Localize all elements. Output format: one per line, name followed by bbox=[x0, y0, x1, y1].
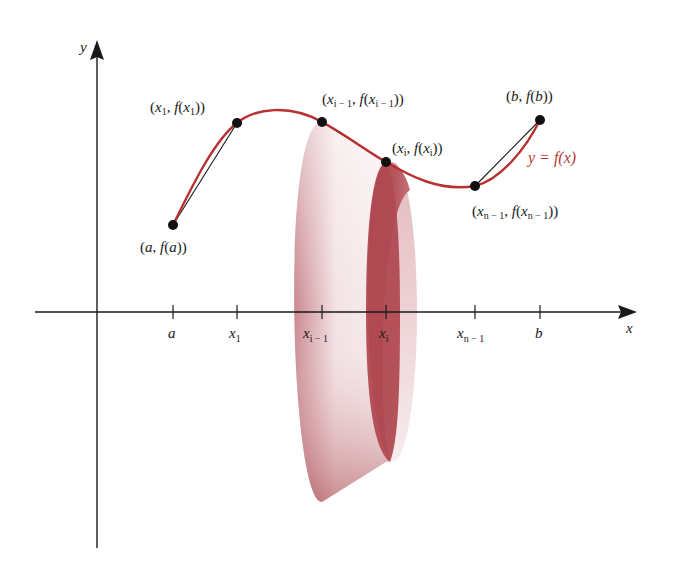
y-axis-label: y bbox=[78, 39, 87, 55]
point-label-x1: (x1, f(x1)) bbox=[150, 99, 205, 117]
tick-label-xnm1: xn − 1 bbox=[456, 325, 484, 344]
y-axis-arrow-icon bbox=[90, 40, 104, 60]
tick-label-b: b bbox=[535, 325, 543, 341]
point-label-xnm1: (xn − 1, f(xn − 1)) bbox=[472, 203, 558, 221]
point-label-b: (b, f(b)) bbox=[506, 88, 553, 105]
tick-label-a: a bbox=[168, 325, 176, 341]
point-label-xi: (xi, f(xi)) bbox=[392, 140, 443, 158]
point-xim1 bbox=[317, 117, 327, 127]
point-label-xim1: (xi − 1, f(xi − 1)) bbox=[322, 91, 404, 109]
point-label-a: (a, f(a)) bbox=[140, 239, 187, 256]
point-xnm1 bbox=[470, 181, 480, 191]
x-axis-label: x bbox=[625, 320, 633, 336]
point-a bbox=[168, 220, 178, 230]
chord-a-x1 bbox=[173, 123, 237, 225]
curve-label: y = f(x) bbox=[526, 149, 576, 167]
tick-label-x1: x1 bbox=[228, 325, 241, 344]
point-xi bbox=[381, 157, 391, 167]
point-x1 bbox=[232, 118, 242, 128]
diagram-canvas: y x a x1 xi − 1 xi xn − 1 b (a, f(a)) (x… bbox=[0, 0, 673, 573]
point-b bbox=[535, 115, 545, 125]
